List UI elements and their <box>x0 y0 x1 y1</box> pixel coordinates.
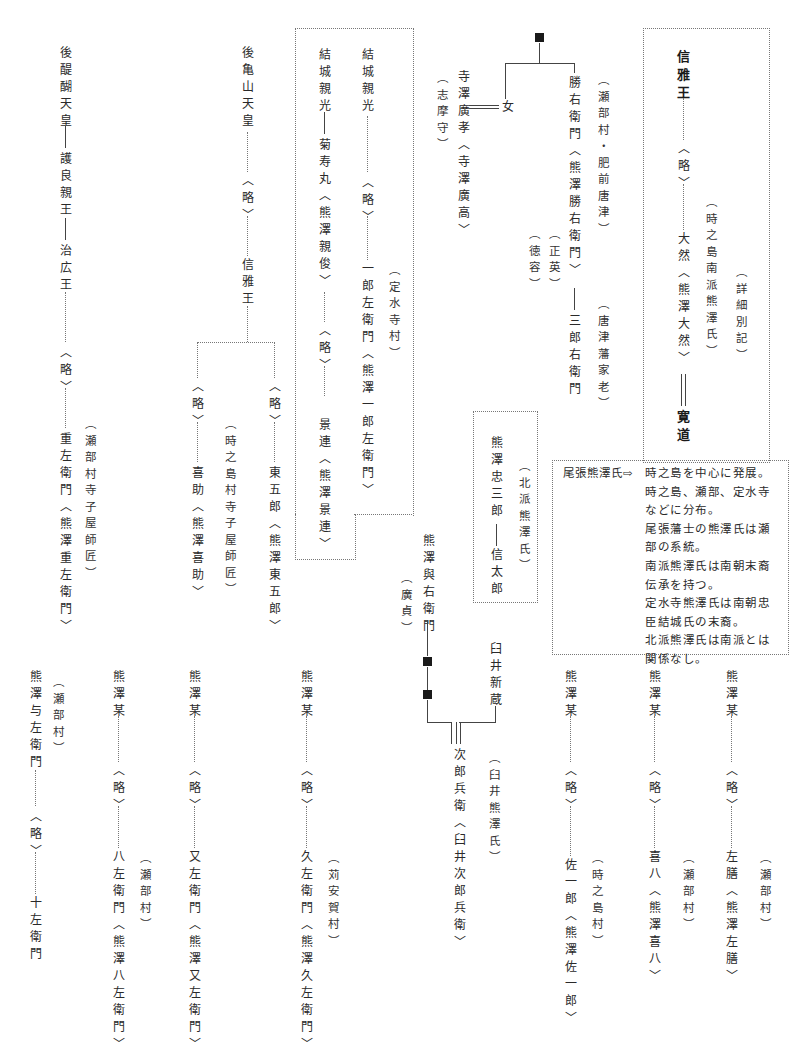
nanpa-note: （時之島南派熊澤氏） <box>703 196 719 361</box>
terasawa-name: 寺澤廣孝〈寺澤廣高〉 <box>456 70 468 240</box>
connector-line <box>324 112 325 134</box>
kyuzaemon-name: 久左衛門〈熊澤久左衛門〉 <box>299 850 311 1054</box>
katsuemon-note-a: （瀬部村・肥前唐津） <box>595 74 611 239</box>
dotted-connector <box>274 422 275 462</box>
godaigo-lineage-line2: 護良親王 <box>58 152 70 220</box>
marriage-line <box>469 105 499 109</box>
dotted-connector <box>570 716 571 762</box>
katsuemon-name: 勝右衛門〈熊澤勝右衛門〉 <box>567 76 579 280</box>
connector-line <box>427 620 428 656</box>
kumazawa-bou: 熊澤某 <box>299 670 311 721</box>
katsuemon-note-b: （正英） <box>546 228 562 294</box>
dotted-connector <box>247 306 248 342</box>
connector-line <box>574 288 575 310</box>
saichiro-name: 佐一郎〈熊澤佐一郎〉 <box>563 858 575 1028</box>
dotted-connector <box>247 132 248 172</box>
hachizaemon-name: 八左衛門〈熊澤八左衛門〉 <box>111 850 123 1054</box>
dotted-connector <box>731 716 732 762</box>
dotted-connector <box>324 292 325 322</box>
unknown-person-square <box>423 690 432 699</box>
kumazawa-bou: 熊澤某 <box>187 670 199 721</box>
dotted-connector <box>367 216 368 260</box>
kumazawa-bou: 熊澤某 <box>563 670 575 721</box>
daughter-label: 女 <box>500 100 512 117</box>
godaigo-lineage-line1: 後醍醐天皇 <box>58 46 70 131</box>
gokameyama-line1: 後亀山天皇 <box>240 46 252 131</box>
usui-shinzo-name: 臼井新蔵 <box>488 642 500 710</box>
unknown-ancestor-square <box>535 33 544 42</box>
legend-lead: 尾張熊澤氏⇨ <box>563 464 634 483</box>
bottom-note: （瀬部村） <box>757 852 773 935</box>
jurozaemon-name: 十左衛門 <box>28 896 40 964</box>
legend-line: 北派熊澤氏は南派とは <box>645 631 785 650</box>
kisuke-name: 喜助〈熊澤喜助〉 <box>190 466 202 602</box>
yuki-b-top: 結城親光 <box>360 48 372 116</box>
ryaku-marker: 〈略〉 <box>647 764 659 815</box>
connector-line <box>496 524 497 546</box>
ryaku-marker: 〈略〉 <box>724 764 736 815</box>
legend-line: 時之島、瀬部、定水寺 <box>645 483 785 502</box>
ryaku-marker: 〈略〉 <box>111 764 123 815</box>
branch-line <box>459 722 496 723</box>
dotted-connector <box>324 366 325 396</box>
matazaemon-name: 又左衛門〈熊澤又左衛門〉 <box>187 850 199 1054</box>
kando-name: 寛道 <box>676 410 688 446</box>
legend-line: 時之島を中心に発展。 <box>645 464 785 483</box>
shintaro-name: 信太郎 <box>489 548 501 599</box>
kikujumaru-name: 菊寿丸〈熊澤親俊〉 <box>317 138 329 291</box>
connector-line <box>451 722 452 744</box>
saburoemon-name: 三郎右衛門 <box>567 314 579 399</box>
ryaku-marker: 〈略〉 <box>563 764 575 815</box>
godaigo-note: （瀬部村寺子屋師匠） <box>82 418 98 583</box>
dotted-connector <box>35 852 36 894</box>
connector-line <box>505 63 506 99</box>
legend-line: 尾張藩士の熊澤氏は瀬 <box>645 520 785 539</box>
ryaku-marker: 〈略〉 <box>28 810 40 861</box>
connector-line <box>574 63 575 73</box>
bottom-note: （苅安賀村） <box>325 852 341 951</box>
dotted-connector <box>274 342 275 378</box>
jousuiji-note: （定水寺村） <box>386 264 402 363</box>
bottom-note: （瀬部村） <box>680 852 696 935</box>
dotted-connector <box>197 342 198 378</box>
dotted-connector <box>654 716 655 762</box>
legend-lines: 時之島を中心に発展。 時之島、瀬部、定水寺 などに分布。 尾張藩士の熊澤氏は瀬 … <box>645 464 785 669</box>
katsuemon-note-c: （徳容） <box>526 228 542 294</box>
terasawa-note: （志摩守） <box>434 72 450 155</box>
branch-line <box>505 63 575 64</box>
connector-line <box>65 218 66 240</box>
godaigo-lineage-line3: 治広王 <box>58 244 70 295</box>
ryaku-marker: 〈略〉 <box>187 764 199 815</box>
legend-line: 定水寺熊澤氏は南朝忠 <box>645 594 785 613</box>
gokameyama-line2: 信雅王 <box>240 258 252 309</box>
box-edge <box>354 514 412 515</box>
legend-line: 臣結城氏の末裔。 <box>645 613 785 632</box>
ryaku-marker: 〈略〉 <box>58 346 70 397</box>
adoption-line <box>456 722 461 744</box>
dotted-connector <box>247 216 248 256</box>
ryaku-marker: 〈略〉 <box>317 324 329 375</box>
yoemon-note: （廣貞） <box>398 572 414 638</box>
legend-line: 南派熊澤氏は南朝末裔 <box>645 557 785 576</box>
dotted-connector <box>683 98 684 140</box>
legend-line: などに分布。 <box>645 501 785 520</box>
dotted-connector <box>367 116 368 172</box>
legend-line: 部の系統。 <box>645 538 785 557</box>
ryaku-marker: 〈略〉 <box>676 142 688 193</box>
karatsu-note: （唐津藩家老） <box>595 298 611 414</box>
dotted-connector <box>35 770 36 806</box>
connector-line <box>495 706 496 722</box>
dotted-connector <box>306 716 307 762</box>
dotted-connector <box>570 806 571 856</box>
hokuha-note: （北派熊澤氏） <box>516 460 532 576</box>
ryaku-marker: 〈略〉 <box>190 380 202 431</box>
kagetsura-name: 景連〈熊澤景連〉 <box>317 418 329 554</box>
bottom-note: （時之島村） <box>589 852 605 951</box>
legend-line: 伝承を持つ。 <box>645 576 785 595</box>
dotted-connector <box>194 806 195 848</box>
yuki-a-top: 結城親光 <box>317 48 329 116</box>
connector-line <box>65 126 66 148</box>
dotted-connector <box>65 388 66 428</box>
dotted-connector <box>65 292 66 342</box>
kihachi-name: 喜八〈熊澤喜八〉 <box>647 850 659 986</box>
